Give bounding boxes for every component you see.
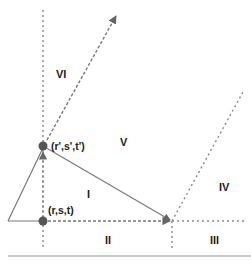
region-label-ii: II: [105, 234, 111, 246]
point-origin: [39, 217, 48, 226]
point-target: [39, 142, 48, 151]
point-target-label: (r',s',t'): [51, 140, 85, 152]
region-label-iv: IV: [219, 181, 230, 193]
region-label-i: I: [87, 188, 90, 200]
diagonal-boundary-right: [172, 92, 243, 221]
region-label-iii: III: [210, 234, 219, 246]
region-label-vi: VI: [56, 68, 66, 80]
point-origin-label: (r,s,t): [48, 204, 74, 216]
solid-slant-left: [8, 150, 42, 221]
bottom-divider: [8, 255, 251, 257]
region-label-v: V: [120, 136, 128, 148]
diagram-canvas: (r',s',t') (r,s,t) VI V I II IV III: [0, 0, 251, 264]
